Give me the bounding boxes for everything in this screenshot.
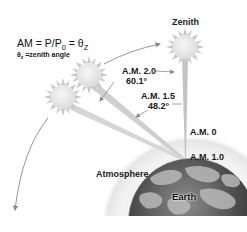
definition-text: =zenith angle bbox=[23, 51, 69, 58]
label-angle-482: 48.2° bbox=[148, 102, 169, 111]
formula-sub-z: Z bbox=[84, 43, 89, 52]
label-angle-601: 60.1° bbox=[126, 77, 147, 86]
label-am20: A.M. 2.0 bbox=[122, 67, 156, 76]
pointer-482 bbox=[136, 110, 148, 117]
arc-arrow-left bbox=[15, 118, 48, 210]
pointer-am20 bbox=[156, 71, 174, 72]
label-zenith: Zenith bbox=[172, 18, 199, 27]
label-am0: A.M. 0 bbox=[190, 128, 217, 137]
air-mass-diagram bbox=[0, 0, 247, 232]
formula-main: AM = P/P bbox=[17, 37, 62, 49]
air-mass-formula: AM = P/P0 = θZ bbox=[17, 38, 88, 52]
label-am10: A.M. 1.0 bbox=[190, 153, 224, 162]
arc-arrow-top bbox=[104, 44, 160, 64]
label-am15: A.M. 1.5 bbox=[141, 92, 175, 101]
sun-icon-zenith bbox=[166, 28, 204, 66]
label-atmosphere: Atmosphere bbox=[96, 170, 149, 179]
label-earth: Earth bbox=[172, 192, 196, 202]
zenith-angle-definition: θz =zenith angle bbox=[17, 51, 70, 60]
formula-tail: = θ bbox=[66, 37, 84, 49]
